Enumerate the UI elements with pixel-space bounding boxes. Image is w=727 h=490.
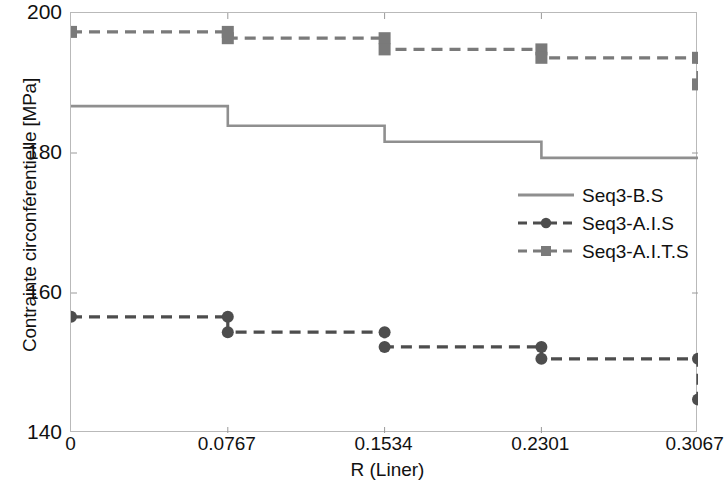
- legend-label-2: Seq3-A.I.T.S: [578, 242, 689, 261]
- legend-label-1: Seq3-A.I.S: [578, 214, 674, 233]
- data-point-marker: [379, 326, 391, 338]
- data-point-marker: [535, 341, 547, 353]
- series-seq3-b-s: [71, 106, 698, 158]
- x-tick-label: 0.3067: [666, 433, 724, 455]
- y-tick-label: 180: [2, 141, 62, 162]
- chart-legend: Seq3-B.S Seq3-A.I.S Seq3-A.I.T.S: [516, 181, 701, 265]
- data-point-marker: [692, 353, 698, 365]
- legend-entry-1: Seq3-A.I.S: [516, 209, 701, 237]
- data-point-marker: [71, 26, 77, 38]
- x-tick-label: 0.1534: [355, 433, 413, 455]
- legend-swatch-dashed-square-icon: [516, 240, 578, 262]
- legend-swatch-dashed-circle-icon: [516, 212, 578, 234]
- x-axis-title-text: R (Liner): [351, 459, 425, 480]
- legend-entry-2: Seq3-A.I.T.S: [516, 237, 701, 265]
- chart-figure: Contrainte circonférentielle [MPa] 14016…: [0, 0, 727, 490]
- series-line: [71, 106, 698, 158]
- legend-label-0: Seq3-B.S: [578, 186, 663, 205]
- data-point-marker: [535, 353, 547, 365]
- data-point-marker: [535, 52, 547, 64]
- data-point-marker: [692, 78, 698, 90]
- data-point-marker: [222, 326, 234, 338]
- series-seq3-a-i-t-s: [71, 26, 698, 91]
- x-axis-title: R (Liner): [0, 459, 727, 481]
- x-tick-label: 0.2301: [511, 433, 569, 455]
- data-point-marker: [222, 311, 234, 323]
- x-tick-label: 0: [65, 433, 76, 455]
- legend-entry-0: Seq3-B.S: [516, 181, 701, 209]
- data-point-marker: [222, 32, 234, 44]
- data-point-marker: [379, 341, 391, 353]
- data-point-marker: [379, 43, 391, 55]
- data-point-marker: [692, 393, 698, 405]
- legend-swatch-solid-line-icon: [516, 184, 578, 206]
- x-tick-label: 0.0767: [198, 433, 256, 455]
- y-tick-label: 200: [2, 1, 62, 22]
- data-point-marker: [692, 52, 698, 64]
- data-point-marker: [71, 311, 77, 323]
- series-seq3-a-i-s: [71, 311, 698, 406]
- data-point-marker: [379, 32, 391, 44]
- y-tick-label: 160: [2, 281, 62, 302]
- y-axis-tick-labels: 140160180200: [0, 0, 62, 420]
